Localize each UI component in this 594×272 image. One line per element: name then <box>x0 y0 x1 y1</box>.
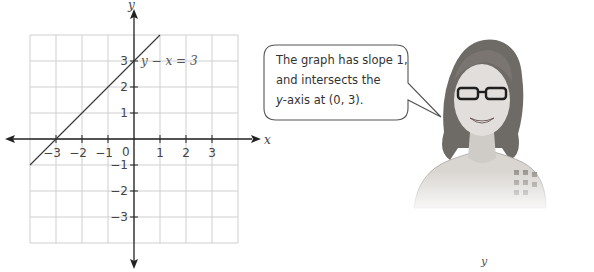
bubble-line-3-rest: -axis at (0, 3). <box>283 93 364 107</box>
y-tick-label: 2 <box>120 80 128 94</box>
x-axis-label: x <box>264 133 271 147</box>
bubble-line-1: The graph has slope 1, <box>276 50 406 70</box>
origin-label: 0 <box>122 145 130 159</box>
x-tick-label: −2 <box>69 146 87 160</box>
speech-bubble: The graph has slope 1, and intersects th… <box>276 50 406 110</box>
x-tick-label: 2 <box>182 146 190 160</box>
axes <box>5 9 261 269</box>
bubble-line-3: y-axis at (0, 3). <box>276 90 406 110</box>
y-tick-label: 1 <box>120 106 128 120</box>
y-tick-label: −3 <box>110 210 128 224</box>
y-tick-label: 3 <box>120 54 128 68</box>
student-avatar-icon <box>410 36 550 216</box>
x-tick-label: 3 <box>208 146 216 160</box>
footer-variable: y <box>481 255 487 268</box>
x-tick-label: 1 <box>156 146 164 160</box>
bubble-y-italic: y <box>276 93 283 107</box>
coordinate-graph: −3−2−1123 321−1−2−3 0 y − x = 3 x y <box>0 0 280 272</box>
x-axis-right-arrow-icon <box>251 135 261 143</box>
bubble-line-2: and intersects the <box>276 70 406 90</box>
y-tick-label: −2 <box>110 184 128 198</box>
y-axis-label: y <box>127 0 135 12</box>
x-tick-label: −3 <box>43 146 61 160</box>
y-tick-label: −1 <box>110 158 128 172</box>
equation-label: y − x = 3 <box>140 54 198 68</box>
